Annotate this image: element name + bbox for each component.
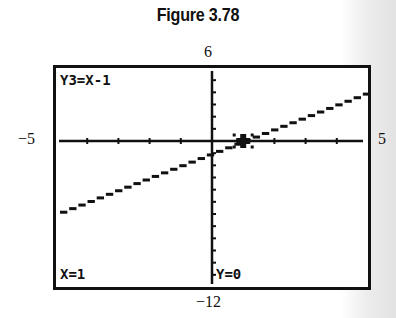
ymin-label: −12 (196, 294, 221, 310)
xmax-label: 5 (378, 131, 386, 147)
xmin-label: −5 (18, 131, 35, 147)
ymax-label: 6 (204, 44, 212, 60)
figure-title: Figure 3.78 (30, 4, 367, 26)
equation-label: Y3=X-1 (60, 73, 111, 87)
cursor-x-readout: X=1 (60, 267, 85, 281)
cursor-y-readout: Y=0 (216, 267, 241, 281)
graph-plot (56, 68, 368, 287)
calculator-screen: Y3=X-1 X=1 Y=0 (53, 65, 371, 290)
